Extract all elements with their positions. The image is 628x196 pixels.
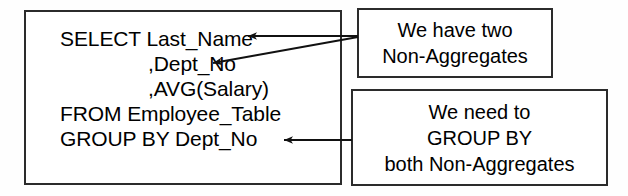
callout-group-by-line-1: We need to (353, 99, 606, 125)
diagram-canvas: SELECT Last_Name ,Dept_No ,AVG(Salary) F… (0, 0, 628, 196)
sql-line-group-by: GROUP BY Dept_No (26, 126, 340, 151)
sql-query-box: SELECT Last_Name ,Dept_No ,AVG(Salary) F… (24, 10, 342, 185)
sql-line-dept-no: ,Dept_No (26, 51, 340, 76)
callout-group-by-line-2: GROUP BY (353, 125, 606, 151)
callout-non-aggregates-line-2: Non-Aggregates (359, 43, 551, 69)
sql-line-select: SELECT Last_Name (26, 26, 340, 51)
callout-non-aggregates-line-1: We have two (359, 17, 551, 43)
callout-group-by-box: We need to GROUP BY both Non-Aggregates (351, 89, 608, 186)
sql-line-from: FROM Employee_Table (26, 101, 340, 126)
callout-non-aggregates-box: We have two Non-Aggregates (357, 8, 553, 78)
callout-group-by-line-3: both Non-Aggregates (353, 151, 606, 177)
sql-line-avg-salary: ,AVG(Salary) (26, 76, 340, 101)
